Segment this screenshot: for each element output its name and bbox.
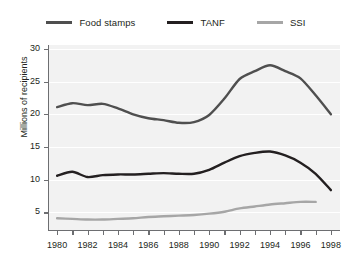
x-tick-label: 1982: [71, 240, 105, 250]
y-tick-mark: [44, 49, 48, 50]
legend-swatch-food-stamps: [46, 21, 72, 24]
chart-legend: Food stamps TANF SSI: [0, 10, 352, 34]
x-tick-mark: [285, 231, 286, 235]
y-tick-label: 5: [18, 206, 40, 216]
x-tick-mark: [270, 231, 271, 235]
y-tick-label: 30: [18, 43, 40, 53]
legend-item-food-stamps: Food stamps: [46, 17, 135, 28]
x-tick-mark: [148, 231, 149, 235]
legend-swatch-tanf: [167, 21, 193, 24]
legend-label-tanf: TANF: [200, 17, 225, 28]
x-tick-mark: [133, 231, 134, 235]
legend-label-ssi: SSI: [290, 17, 306, 28]
y-tick-mark: [44, 82, 48, 83]
y-tick-mark: [44, 180, 48, 181]
y-tick-mark: [44, 147, 48, 148]
x-tick-mark: [72, 231, 73, 235]
x-tick-label: 1992: [223, 240, 257, 250]
x-tick-mark: [118, 231, 119, 235]
plot-area: [48, 45, 340, 230]
x-tick-mark: [194, 231, 195, 235]
y-axis-line: [48, 45, 49, 231]
y-tick-mark: [44, 212, 48, 213]
y-tick-label: 20: [18, 108, 40, 118]
legend-item-tanf: TANF: [167, 17, 225, 28]
y-tick-label: 10: [18, 174, 40, 184]
x-tick-mark: [331, 231, 332, 235]
y-tick-label: 25: [18, 76, 40, 86]
series-layer: [48, 45, 340, 230]
x-tick-mark: [209, 231, 210, 235]
x-tick-label: 1984: [101, 240, 135, 250]
x-tick-mark: [300, 231, 301, 235]
x-tick-label: 1986: [131, 240, 165, 250]
x-tick-label: 1988: [162, 240, 196, 250]
x-tick-mark: [179, 231, 180, 235]
x-tick-mark: [316, 231, 317, 235]
series-line-ssi: [57, 202, 316, 220]
y-axis-title: Millions of recipients: [19, 17, 29, 177]
y-tick-label: 15: [18, 141, 40, 151]
chart-figure: Food stamps TANF SSI Millions of recipie…: [0, 0, 352, 265]
y-tick-mark: [44, 114, 48, 115]
x-tick-mark: [57, 231, 58, 235]
series-line-food-stamps: [57, 65, 331, 123]
x-tick-label: 1980: [40, 240, 74, 250]
series-line-tanf: [57, 151, 331, 190]
x-tick-mark: [164, 231, 165, 235]
x-tick-mark: [103, 231, 104, 235]
x-tick-mark: [240, 231, 241, 235]
x-tick-label: 1998: [314, 240, 348, 250]
legend-swatch-ssi: [257, 21, 283, 24]
legend-label-food-stamps: Food stamps: [79, 17, 135, 28]
x-tick-mark: [255, 231, 256, 235]
x-tick-mark: [88, 231, 89, 235]
x-tick-label: 1990: [192, 240, 226, 250]
legend-item-ssi: SSI: [257, 17, 306, 28]
x-tick-label: 1996: [283, 240, 317, 250]
x-tick-label: 1994: [253, 240, 287, 250]
x-tick-mark: [224, 231, 225, 235]
